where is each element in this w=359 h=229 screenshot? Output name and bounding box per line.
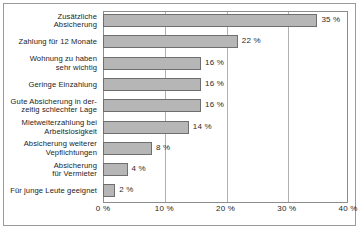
bar [103,121,189,134]
category-label: Wohnung zu habensehr wichtig [0,55,97,72]
bar-value-label: 16 % [205,77,224,90]
category-label-line: Arbeitslosigkeit [0,128,97,137]
bar [103,78,201,91]
bar-row: 4 % [103,160,348,181]
category-label: Für junge Leute geeignet [0,187,97,196]
category-label: Absicherungfür Vermieter [0,162,97,179]
x-tick-label-20: 20 % [216,204,235,213]
bar [103,57,201,70]
bar-value-label: 35 % [321,13,340,26]
bar-value-label: 16 % [205,56,224,69]
bar [103,35,238,48]
category-label-line: Vepflichtungen [0,149,97,158]
bar-value-label: 8 % [156,141,170,154]
bar-row: 35 % [103,11,348,32]
category-label: Zahlung für 12 Monate [0,38,97,47]
category-label: ZusätzlicheAbsicherung [0,13,97,30]
bar-row: 2 % [103,181,348,202]
x-axis-tick-labels: 0 %10 %20 %30 %40 % [103,204,348,218]
bar-value-label: 22 % [242,34,261,47]
bar-row: 14 % [103,118,348,139]
category-label-line: Geringe Einzahlung [0,81,97,90]
bar [103,99,201,112]
category-label-line: zeitig schlechter Lage [0,106,97,115]
category-label: Geringe Einzahlung [0,81,97,90]
category-label-line: Zahlung für 12 Monate [0,38,97,47]
bar-value-label: 4 % [132,162,146,175]
bar-value-label: 2 % [119,183,133,196]
category-label-line: Absicherung [0,21,97,30]
bar [103,163,128,176]
category-label: Absicherung weitererVepflichtungen [0,140,97,157]
x-tick-label-10: 10 % [155,204,174,213]
category-label-line: für Vermieter [0,170,97,179]
bar-chart-figure: ZusätzlicheAbsicherungZahlung für 12 Mon… [0,0,359,229]
bar-value-label: 16 % [205,98,224,111]
bar-row: 16 % [103,75,348,96]
x-tick-label-0: 0 % [96,204,110,213]
bar-row: 22 % [103,32,348,53]
category-axis-labels: ZusätzlicheAbsicherungZahlung für 12 Mon… [0,11,100,203]
bar [103,14,317,27]
category-label-line: Für junge Leute geeignet [0,187,97,196]
bar-row: 16 % [103,96,348,117]
bar-row: 16 % [103,54,348,75]
bar [103,184,115,197]
category-label: Gute Absicherung in der-zeitig schlechte… [0,98,97,115]
bar-row: 8 % [103,139,348,160]
category-label: Mietweiterzahlung beiArbeitslosigkeit [0,119,97,136]
x-tick-label-30: 30 % [277,204,296,213]
bar-series: 35 %22 %16 %16 %16 %14 %8 %4 %2 % [103,11,348,203]
category-label-line: sehr wichtig [0,64,97,73]
bar [103,142,152,155]
x-tick-label-40: 40 % [338,204,357,213]
bar-value-label: 14 % [193,120,212,133]
